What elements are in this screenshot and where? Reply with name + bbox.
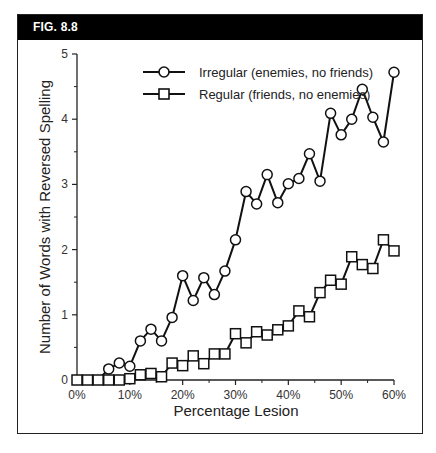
square-marker [125,374,135,384]
y-tick-label: 1 [61,308,68,322]
circle-marker [167,312,177,322]
circle-marker [347,114,357,124]
square-marker [135,370,145,380]
square-marker [315,288,325,298]
legend-irregular: Irregular (enemies, no friends) [199,65,373,80]
square-marker [157,372,167,382]
y-tick-label: 3 [61,177,68,191]
square-marker [252,327,262,337]
series-group [72,67,399,385]
circle-marker [304,149,314,159]
square-marker [389,246,399,256]
circle-marker [178,271,188,281]
square-marker [262,330,272,340]
square-marker [347,252,357,262]
circle-marker [114,358,124,368]
x-tick-label: 60% [382,388,406,402]
circle-marker [336,130,346,140]
y-tick-label: 2 [61,243,68,257]
circle-marker [262,170,272,180]
circle-marker [231,235,241,245]
circle-marker [326,108,336,118]
square-marker [357,260,367,270]
square-marker [209,349,219,359]
square-marker [93,375,103,385]
square-marker [114,375,124,385]
square-marker [378,235,388,245]
square-marker [273,325,283,335]
x-tick-label: 0% [68,388,86,402]
square-marker [294,306,304,316]
circle-marker [104,364,114,374]
circle-marker [315,176,325,186]
square-marker [178,361,188,371]
square-marker [326,275,336,285]
square-marker [146,368,156,378]
circle-marker [283,179,293,189]
x-tick-label: 30% [223,388,247,402]
x-tick-label: 10% [118,388,142,402]
circle-marker [273,198,283,208]
square-marker [231,329,241,339]
square-marker [283,321,293,331]
circle-icon [159,67,169,77]
square-marker [220,349,230,359]
legend: Irregular (enemies, no friends) Regular … [143,65,373,102]
square-marker [199,359,209,369]
y-axis-label: Number of Words with Reversed Spelling [36,80,53,354]
circle-marker [199,273,209,283]
x-tick-label: 50% [329,388,353,402]
x-axis-label: Percentage Lesion [173,402,298,419]
square-marker [104,375,114,385]
square-marker [304,312,314,322]
legend-regular: Regular (friends, no enemies) [199,87,370,102]
x-tick-label: 20% [171,388,195,402]
line-chart: 0123450%10%20%30%40%50%60% Irregular (en… [0,0,436,453]
circle-marker [209,290,219,300]
y-tick-label: 5 [61,47,68,61]
circle-marker [135,336,145,346]
circle-marker [188,295,198,305]
circle-marker [125,361,135,371]
square-marker [167,358,177,368]
square-marker [241,338,251,348]
circle-marker [368,112,378,122]
circle-marker [389,67,399,77]
square-marker [72,375,82,385]
circle-marker [157,336,167,346]
circle-marker [220,266,230,276]
x-tick-label: 40% [276,388,300,402]
square-marker [188,351,198,361]
square-marker [368,264,378,274]
y-tick-label: 0 [61,373,68,387]
square-marker [83,375,93,385]
circle-marker [294,174,304,184]
y-tick-label: 4 [61,112,68,126]
circle-marker [241,187,251,197]
square-icon [159,89,169,99]
circle-marker [252,199,262,209]
circle-marker [146,324,156,334]
square-marker [336,279,346,289]
circle-marker [378,137,388,147]
